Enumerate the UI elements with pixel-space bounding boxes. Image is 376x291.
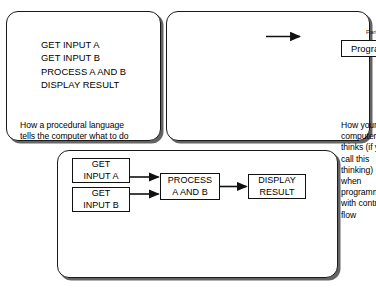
cpu-section-label: Part of the CPU [343,29,376,36]
dataflow-node-get-input-b: GET INPUT B [72,187,130,212]
program-counter-box: Program Counter [341,40,376,57]
panel-control-flow: Part of the CPU Instructions in memory P… [166,11,370,141]
procedural-caption: How a procedural language tells the comp… [20,120,128,142]
dataflow-node-get-input-a: GET INPUT A [72,158,130,183]
dataflow-node-display: DISPLAY RESULT [248,174,306,199]
procedural-code-listing: GET INPUT A GET INPUT B PROCESS A AND B … [41,38,126,92]
control-flow-caption: How your computer thinks (if you call th… [341,120,376,221]
dataflow-node-process: PROCESS A AND B [160,173,220,200]
panel-procedural-language: GET INPUT A GET INPUT B PROCESS A AND B … [6,11,161,141]
